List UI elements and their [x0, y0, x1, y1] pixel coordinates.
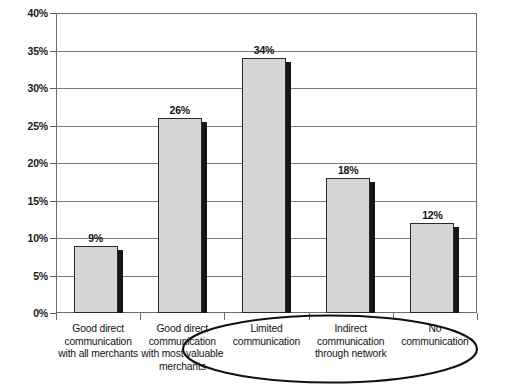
- category-label-line: Limited: [220, 323, 312, 336]
- bar-value-label: 34%: [242, 44, 286, 56]
- category-label-line: Good direct: [136, 323, 228, 336]
- y-axis-tick-label: 35%: [4, 45, 48, 57]
- category-label-line: No: [389, 323, 481, 336]
- x-axis-tick-mark: [140, 313, 141, 320]
- y-axis-tick-label: 15%: [4, 195, 48, 207]
- x-axis-category-label: Limitedcommunication: [220, 323, 312, 348]
- bar-group: 34%: [242, 13, 291, 313]
- x-axis-tick-mark: [309, 313, 310, 320]
- category-label-line: through network: [305, 348, 397, 361]
- bar-shadow: [454, 227, 459, 313]
- y-axis-tick-label: 25%: [4, 120, 48, 132]
- bar-group: 12%: [410, 13, 459, 313]
- bar-shadow: [202, 122, 207, 313]
- category-label-line: communication: [305, 336, 397, 349]
- category-label-line: merchants: [136, 361, 228, 374]
- y-axis-tick-label: 40%: [4, 7, 48, 19]
- category-label-line: with all merchants: [52, 348, 144, 361]
- bar-group: 9%: [74, 13, 123, 313]
- plot-area: 9%26%34%18%12%: [56, 13, 477, 313]
- bar-value-label: 18%: [326, 164, 370, 176]
- bar-value-label: 9%: [74, 232, 118, 244]
- bar-group: 26%: [158, 13, 207, 313]
- y-axis-tick-label: 30%: [4, 82, 48, 94]
- x-axis-tick-mark: [477, 313, 478, 320]
- x-axis-tick-mark: [224, 313, 225, 320]
- x-axis-category-label: Good directcommunicationwith all merchan…: [52, 323, 144, 361]
- bar-shadow: [118, 250, 123, 314]
- x-axis-category-label: Nocommunication: [389, 323, 481, 348]
- y-axis-tick-label: 20%: [4, 157, 48, 169]
- bar-value-label: 26%: [158, 104, 202, 116]
- x-axis-tick-mark: [56, 313, 57, 320]
- category-label-line: communication: [52, 336, 144, 349]
- category-label-line: with most valuable: [136, 348, 228, 361]
- bar-shadow: [370, 182, 375, 313]
- bar-value-label: 12%: [410, 209, 454, 221]
- bar: [242, 58, 286, 313]
- bar: [74, 246, 118, 314]
- chart-figure: 0%5%10%15%20%25%30%35%40% 9%26%34%18%12%…: [0, 0, 521, 390]
- category-label-line: Good direct: [52, 323, 144, 336]
- y-axis-tick-label: 5%: [4, 270, 48, 282]
- x-axis-category-label: Indirectcommunicationthrough network: [305, 323, 397, 361]
- y-axis-tick-label: 10%: [4, 232, 48, 244]
- bar: [326, 178, 370, 313]
- category-label-line: communication: [220, 336, 312, 349]
- bar-group: 18%: [326, 13, 375, 313]
- bar: [410, 223, 454, 313]
- bar-shadow: [286, 62, 291, 313]
- bar: [158, 118, 202, 313]
- category-label-line: communication: [389, 336, 481, 349]
- category-label-line: Indirect: [305, 323, 397, 336]
- category-label-line: communication: [136, 336, 228, 349]
- x-axis-category-label: Good directcommunicationwith most valuab…: [136, 323, 228, 373]
- y-axis-tick-label: 0%: [4, 307, 48, 319]
- x-axis-tick-mark: [393, 313, 394, 320]
